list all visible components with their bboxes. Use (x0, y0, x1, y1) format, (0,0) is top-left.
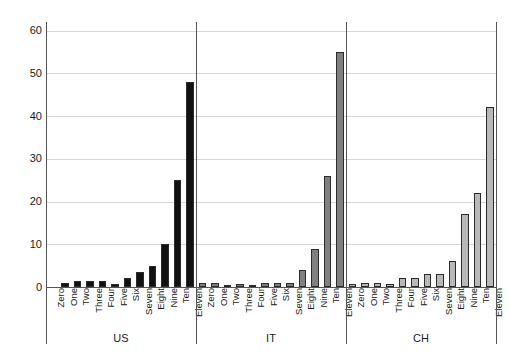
y-tick-label-40: 40 (2, 111, 42, 122)
gridline-20 (46, 202, 496, 203)
bar-US-Eleven (186, 82, 194, 287)
x-tick-label-US-Seven: Seven (144, 288, 154, 315)
x-tick-label-CH-Four: Four (406, 288, 416, 308)
y-tick-label-50: 50 (2, 68, 42, 79)
bar-CH-Seven (436, 274, 444, 287)
x-tick-label-IT-Seven: Seven (294, 288, 304, 315)
x-tick-label-CH-Two: Two (381, 288, 391, 305)
x-tick-label-US-Eight: Eight (156, 288, 166, 310)
bar-CH-Nine (461, 214, 469, 287)
group-separator-left-US (46, 22, 47, 344)
y-tick-label-10: 10 (2, 239, 42, 250)
bar-IT-Eight (299, 270, 307, 287)
x-tick-label-US-Zero: Zero (56, 288, 66, 308)
bar-chart: 0102030405060 ZeroOneTwoThreeFourFiveSix… (0, 0, 510, 354)
x-tick-label-IT-Ten: Ten (331, 288, 341, 303)
group-label-US: US (46, 332, 196, 344)
x-tick-label-US-Six: Six (131, 288, 141, 301)
y-tick-label-0: 0 (2, 282, 42, 293)
x-tick-label-CH-Zero: Zero (356, 288, 366, 308)
x-tick-label-IT-Five: Five (269, 288, 279, 306)
gridline-40 (46, 116, 496, 117)
x-tick-label-US-Two: Two (81, 288, 91, 305)
x-tick-label-IT-Four: Four (256, 288, 266, 308)
bar-IT-Nine (311, 249, 319, 287)
x-tick-label-CH-Seven: Seven (444, 288, 454, 315)
x-tick-label-CH-One: One (369, 288, 379, 306)
x-tick-label-US-Ten: Ten (181, 288, 191, 303)
bar-IT-Ten (324, 176, 332, 287)
bar-CH-Six (424, 274, 432, 287)
gridline-30 (46, 159, 496, 160)
x-tick-label-US-One: One (69, 288, 79, 306)
gridline-10 (46, 244, 496, 245)
x-tick-label-US-Nine: Nine (169, 288, 179, 308)
x-tick-label-CH-Eight: Eight (456, 288, 466, 310)
gridline-50 (46, 73, 496, 74)
x-tick-label-IT-Two: Two (231, 288, 241, 305)
bar-US-Seven (136, 272, 144, 287)
x-tick-label-CH-Ten: Ten (481, 288, 491, 303)
bar-US-Six (124, 278, 132, 287)
x-tick-label-CH-Six: Six (431, 288, 441, 301)
plot-area (46, 22, 496, 287)
x-tick-label-IT-Nine: Nine (319, 288, 329, 308)
x-axis-category-labels: ZeroOneTwoThreeFourFiveSixSevenEightNine… (46, 288, 496, 332)
x-tick-label-CH-Three: Three (394, 288, 404, 313)
x-tick-label-IT-Zero: Zero (206, 288, 216, 308)
group-label-IT: IT (196, 332, 346, 344)
group-separator-left-IT (196, 22, 197, 344)
gridline-60 (46, 31, 496, 32)
group-separator-left-CH (346, 22, 347, 344)
bar-US-Nine (161, 244, 169, 287)
group-label-CH: CH (346, 332, 496, 344)
x-tick-label-IT-One: One (219, 288, 229, 306)
group-separator-right-end (496, 22, 497, 344)
bar-CH-Eight (449, 261, 457, 287)
y-tick-label-30: 30 (2, 153, 42, 164)
x-tick-label-CH-Nine: Nine (469, 288, 479, 308)
x-tick-label-US-Three: Three (94, 288, 104, 313)
x-tick-label-US-Four: Four (106, 288, 116, 308)
bar-CH-Five (411, 278, 419, 287)
x-tick-label-US-Five: Five (119, 288, 129, 306)
x-tick-label-IT-Three: Three (244, 288, 254, 313)
x-tick-label-IT-Six: Six (281, 288, 291, 301)
bar-CH-Ten (474, 193, 482, 287)
bar-US-Ten (174, 180, 182, 287)
x-tick-label-IT-Eight: Eight (306, 288, 316, 310)
x-tick-label-CH-Five: Five (419, 288, 429, 306)
y-tick-label-20: 20 (2, 196, 42, 207)
bar-CH-Four (399, 278, 407, 287)
bar-US-Eight (149, 266, 157, 287)
bar-CH-Eleven (486, 107, 494, 287)
y-axis: 0102030405060 (0, 22, 42, 287)
bar-IT-Eleven (336, 52, 344, 287)
y-tick-label-60: 60 (2, 25, 42, 36)
